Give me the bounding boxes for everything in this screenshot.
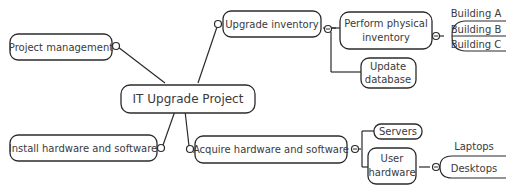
- mind-map-canvas: IT Upgrade Project Project management In…: [0, 0, 506, 188]
- topic-laptops[interactable]: Laptops: [454, 141, 494, 152]
- collapse-toggle-user-hardware[interactable]: [433, 164, 440, 171]
- collapse-toggle-upgrade-inventory[interactable]: [215, 21, 222, 28]
- topic-update-database[interactable]: Update database: [361, 58, 416, 88]
- connector-project-management: [118, 47, 165, 83]
- topic-servers-label: Servers: [379, 126, 417, 137]
- topic-upgrade-inventory[interactable]: Upgrade inventory: [223, 11, 321, 37]
- topic-install[interactable]: Install hardware and software: [9, 135, 158, 161]
- topic-perform-physical-inventory-line1: Perform physical: [344, 18, 427, 29]
- topic-servers[interactable]: Servers: [374, 124, 422, 139]
- topic-user-hardware-line1: User: [381, 153, 405, 164]
- topic-building-c-label: Building C: [451, 39, 502, 50]
- topic-building-b[interactable]: Building B: [451, 24, 502, 35]
- topic-user-hardware[interactable]: User hardware: [368, 148, 416, 184]
- topic-user-hardware-line2: hardware: [368, 167, 415, 178]
- collapse-toggle-perform-physical-inventory[interactable]: [433, 33, 440, 40]
- collapse-toggle-upgrade-inventory-children[interactable]: [325, 26, 332, 33]
- topic-update-database-line1: Update: [370, 61, 406, 72]
- topic-acquire-label: Acquire hardware and software: [193, 144, 349, 155]
- topic-perform-physical-inventory[interactable]: Perform physical inventory: [340, 12, 432, 49]
- connector-acquire: [185, 111, 189, 146]
- collapse-toggle-install[interactable]: [158, 145, 165, 152]
- collapse-toggle-project-management[interactable]: [113, 43, 120, 50]
- topic-building-a[interactable]: Building A: [451, 8, 502, 19]
- topic-desktops-label: Desktops: [451, 163, 497, 174]
- topic-laptops-label: Laptops: [454, 141, 494, 152]
- topic-building-a-label: Building A: [451, 8, 502, 19]
- topic-upgrade-inventory-label: Upgrade inventory: [225, 19, 319, 30]
- topic-acquire[interactable]: Acquire hardware and software: [193, 136, 349, 163]
- topic-building-b-label: Building B: [451, 24, 502, 35]
- topic-perform-physical-inventory-line2: inventory: [362, 32, 410, 43]
- central-topic-label: IT Upgrade Project: [133, 92, 244, 106]
- topic-project-management-label: Project management: [9, 42, 113, 53]
- connector-install: [162, 111, 175, 148]
- central-topic[interactable]: IT Upgrade Project: [121, 85, 255, 113]
- topic-install-label: Install hardware and software: [9, 143, 158, 154]
- topic-update-database-line2: database: [365, 74, 411, 85]
- topic-desktops[interactable]: Desktops: [451, 163, 497, 174]
- collapse-toggle-acquire-children[interactable]: [352, 146, 359, 153]
- topic-project-management[interactable]: Project management: [9, 34, 113, 60]
- topic-building-c[interactable]: Building C: [451, 39, 502, 50]
- connector-upgrade-inventory: [198, 24, 218, 83]
